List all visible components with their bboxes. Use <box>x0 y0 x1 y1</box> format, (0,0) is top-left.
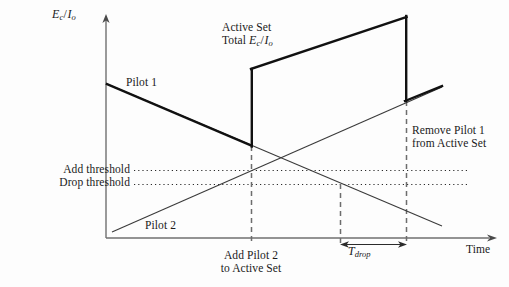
remove-pilot-1-line-2: from Active Set <box>412 137 486 150</box>
active-set-segment-pilot2 <box>405 86 442 101</box>
y-axis-label-i-sub: o <box>72 12 76 22</box>
y-axis-label: Ec/Io <box>52 8 76 24</box>
active-set-segment-pilot1 <box>107 84 251 146</box>
t-drop-label: Tdrop <box>348 245 371 261</box>
add-threshold-label: Add threshold <box>20 163 130 176</box>
active-set-line-1: Active Set <box>222 21 271 33</box>
active-set-line-2: Total Ec/Io <box>222 34 273 50</box>
add-pilot-2-annotation: Add Pilot 2 to Active Set <box>196 249 306 275</box>
threshold-lines <box>134 171 468 185</box>
add-pilot-2-line-1: Add Pilot 2 <box>224 249 278 261</box>
active-set-total-word: Total <box>222 34 249 46</box>
active-set-ecio: Ec/Io <box>249 33 273 47</box>
t-drop-main: T <box>348 244 355 258</box>
add-pilot-2-line-2: to Active Set <box>196 262 306 275</box>
active-set-i-sub: o <box>269 38 273 48</box>
active-set-annotation: Active Set Total Ec/Io <box>222 21 273 50</box>
remove-pilot-1-line-1: Remove Pilot 1 <box>412 124 485 136</box>
t-drop-sub: drop <box>355 249 371 259</box>
remove-pilot-1-annotation: Remove Pilot 1 from Active Set <box>412 124 486 150</box>
pilot2-curve <box>112 87 442 232</box>
drop-threshold-label: Drop threshold <box>20 176 130 189</box>
x-axis-label: Time <box>466 243 490 256</box>
pilot-2-label: Pilot 2 <box>145 219 176 232</box>
pilot-1-label: Pilot 1 <box>126 76 157 89</box>
event-markers <box>252 101 407 243</box>
active-set-segment-combined <box>251 17 407 69</box>
figure-canvas: Ec/Io Active Set Total Ec/Io Pilot 1 Pil… <box>0 0 509 287</box>
active-set-total-curve <box>107 16 442 147</box>
